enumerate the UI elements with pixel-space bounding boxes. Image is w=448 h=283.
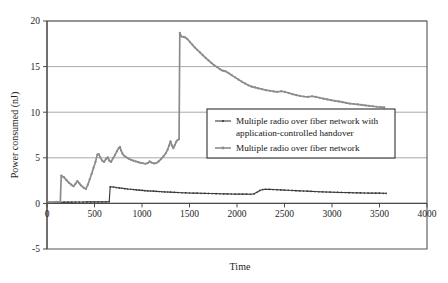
series-2-marker xyxy=(379,106,381,108)
series-2-marker xyxy=(144,163,146,165)
series-2-marker xyxy=(120,149,122,151)
series-1-marker xyxy=(161,191,163,193)
y-tick-label-5: 5 xyxy=(35,153,40,163)
x-tick-label-2000: 2000 xyxy=(228,209,247,219)
y-tick-label-15: 15 xyxy=(31,62,41,72)
series-2-marker xyxy=(175,141,177,143)
series-1-marker xyxy=(101,201,103,203)
series-2-marker xyxy=(334,100,336,102)
series-2-marker xyxy=(225,70,227,72)
series-2-marker xyxy=(60,174,62,176)
series-1-marker xyxy=(181,192,183,194)
series-1-marker xyxy=(97,201,99,203)
series-2-marker xyxy=(254,86,256,88)
series-2-marker xyxy=(82,187,84,189)
series-2-marker xyxy=(357,103,359,105)
series-1-marker xyxy=(265,188,267,190)
series-1-marker xyxy=(352,192,354,194)
series-1-marker xyxy=(116,187,118,189)
series-1-marker xyxy=(109,186,111,188)
series-2-marker xyxy=(55,201,57,203)
series-2-marker xyxy=(169,140,171,142)
legend-label-2: Multiple radio over fiber network xyxy=(236,143,360,153)
y-tick-label-20: 20 xyxy=(31,16,41,26)
series-2-marker xyxy=(196,49,198,51)
series-2-marker xyxy=(172,147,174,149)
series-2-marker xyxy=(108,159,110,161)
series-2-marker xyxy=(119,146,121,148)
series-1-marker xyxy=(299,190,301,192)
series-1-marker xyxy=(223,193,225,195)
series-2-marker xyxy=(149,160,151,162)
series-1-marker xyxy=(341,192,343,194)
series-2-marker xyxy=(272,90,274,92)
legend-label-1: Multiple radio over fiber network with xyxy=(236,116,379,126)
series-2-marker xyxy=(74,183,76,185)
x-tick-label-2500: 2500 xyxy=(275,209,294,219)
series-1-marker xyxy=(71,201,73,203)
series-2-marker xyxy=(76,180,78,182)
series-2-marker xyxy=(150,161,152,163)
series-1-marker xyxy=(105,201,107,203)
power-consumption-line-chart: -505101520050010001500200025003000350040… xyxy=(0,0,448,283)
x-tick-label-3500: 3500 xyxy=(370,209,389,219)
y-tick-label--5: -5 xyxy=(32,244,40,254)
series-2-marker xyxy=(174,144,176,146)
chart-figure: -505101520050010001500200025003000350040… xyxy=(0,0,448,283)
series-2-marker xyxy=(213,64,215,66)
series-1-marker xyxy=(108,201,110,203)
series-1-marker xyxy=(63,201,65,203)
series-1-marker xyxy=(90,201,92,203)
series-1-marker xyxy=(379,192,381,194)
series-2-marker xyxy=(80,185,82,187)
series-1-marker xyxy=(295,190,297,192)
series-1-marker xyxy=(230,193,232,195)
series-1-marker xyxy=(113,186,115,188)
chart-legend[interactable]: Multiple radio over fiber network withap… xyxy=(207,109,395,158)
series-2-marker xyxy=(261,88,263,90)
series-2-marker xyxy=(280,90,282,92)
series-2-marker xyxy=(194,46,196,48)
series-1-marker xyxy=(249,193,251,195)
series-2-marker xyxy=(191,44,193,46)
series-1-marker xyxy=(363,192,365,194)
series-1-marker xyxy=(367,192,369,194)
series-1-marker xyxy=(259,190,261,192)
series-2-marker xyxy=(269,90,271,92)
series-2-marker xyxy=(376,106,378,108)
series-2-marker xyxy=(137,161,139,163)
series-2-marker xyxy=(92,167,94,169)
series-2-marker xyxy=(52,201,54,203)
series-1-marker xyxy=(204,193,206,195)
series-1-marker xyxy=(344,192,346,194)
series-1-marker xyxy=(276,189,278,191)
series-1-marker xyxy=(371,192,373,194)
series-2-marker xyxy=(73,185,75,187)
series-2-marker xyxy=(288,92,290,94)
series-2-marker xyxy=(70,184,72,186)
series-2-marker xyxy=(291,93,293,95)
series-2-marker xyxy=(353,103,355,105)
series-1-marker xyxy=(185,192,187,194)
series-1-marker xyxy=(211,193,213,195)
series-2-marker xyxy=(147,162,149,164)
x-tick-label-1500: 1500 xyxy=(180,209,199,219)
series-2-marker xyxy=(349,102,351,104)
series-1-marker xyxy=(385,192,387,194)
series-2-marker xyxy=(326,98,328,100)
y-tick-label-10: 10 xyxy=(31,108,41,118)
series-2-marker xyxy=(299,95,301,97)
series-1-marker xyxy=(177,192,179,194)
series-2-marker xyxy=(105,158,107,160)
series-1-marker xyxy=(272,189,274,191)
series-1-marker xyxy=(382,192,384,194)
series-2-marker xyxy=(153,162,155,164)
series-1-marker xyxy=(192,192,194,194)
series-1-marker xyxy=(78,201,80,203)
series-2-marker xyxy=(116,150,118,152)
series-2-marker xyxy=(284,91,286,93)
series-2-marker xyxy=(63,176,65,178)
series-1-marker xyxy=(144,190,146,192)
series-2-marker xyxy=(330,99,332,101)
series-1-marker xyxy=(118,187,120,189)
